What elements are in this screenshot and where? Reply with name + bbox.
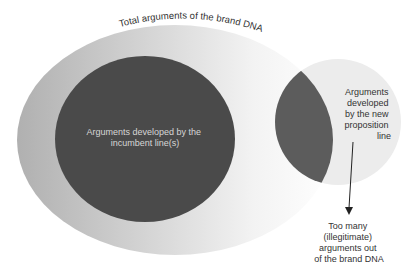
callout-label: Too many (illegitimate) arguments out of… (314, 221, 384, 264)
venn-diagram: Total arguments of the brand DNA Argumen… (0, 0, 410, 279)
